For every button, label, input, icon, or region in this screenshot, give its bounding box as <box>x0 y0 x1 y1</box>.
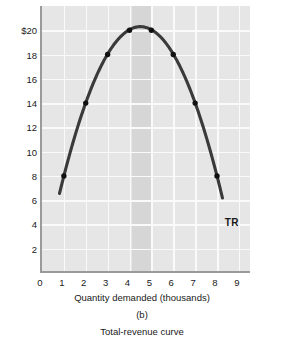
tr-data-markers <box>61 28 220 179</box>
x-tick-label: 7 <box>183 277 203 288</box>
data-point <box>171 52 176 57</box>
total-revenue-curve <box>42 6 250 273</box>
data-point <box>105 52 110 57</box>
tr-curve-path <box>60 27 223 198</box>
y-tick-label: 8 <box>0 170 37 181</box>
total-revenue-figure: Total revenue (thousands of dollars) 246… <box>0 0 284 342</box>
y-tick-label: 12 <box>0 122 37 133</box>
x-tick-label: 6 <box>161 277 181 288</box>
x-axis-title: Quantity demanded (thousands) <box>0 292 284 303</box>
plot-inner <box>42 6 250 271</box>
x-tick-label: 3 <box>96 277 116 288</box>
data-point <box>83 100 88 105</box>
y-tick-label: 18 <box>0 49 37 60</box>
x-tick-label: 9 <box>227 277 247 288</box>
x-tick-label: 4 <box>118 277 138 288</box>
x-tick-label: 0 <box>30 277 50 288</box>
data-point <box>149 28 154 33</box>
data-point <box>127 28 132 33</box>
panel-label: (b) <box>0 309 284 320</box>
data-point <box>61 173 66 178</box>
x-tick-label: 2 <box>74 277 94 288</box>
y-tick-label: 6 <box>0 195 37 206</box>
y-tick-label: 14 <box>0 98 37 109</box>
y-tick-label: 16 <box>0 73 37 84</box>
x-tick-label: 8 <box>205 277 225 288</box>
y-tick-label: $20 <box>0 25 37 36</box>
data-point <box>214 173 219 178</box>
y-tick-label: 2 <box>0 243 37 254</box>
x-tick-label: 5 <box>139 277 159 288</box>
plot-area <box>40 6 250 273</box>
x-tick-label: 1 <box>52 277 72 288</box>
series-label-tr: TR <box>225 217 239 228</box>
y-tick-label: 4 <box>0 219 37 230</box>
y-tick-label: 10 <box>0 146 37 157</box>
data-point <box>192 100 197 105</box>
figure-caption: Total-revenue curve <box>0 326 284 337</box>
